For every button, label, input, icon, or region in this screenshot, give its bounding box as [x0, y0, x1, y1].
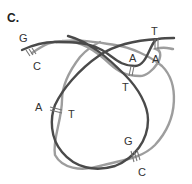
base-label-a-left: A	[35, 101, 43, 113]
base-label-t-left: T	[68, 108, 75, 120]
base-label-t-top-right: T	[151, 25, 158, 37]
base-label-c-top-left: C	[33, 60, 41, 72]
base-label-g-bottom: G	[124, 135, 133, 147]
base-label-t-upper-middle: T	[122, 81, 129, 93]
bond-top-left	[26, 48, 36, 56]
panel-label: C.	[7, 11, 19, 25]
dna-diagram: C. G C T A A T A T G C	[0, 0, 192, 184]
base-label-a-top-right: A	[152, 53, 160, 65]
base-label-c-bottom: C	[138, 166, 146, 178]
base-label-g-top-left: G	[19, 32, 28, 44]
base-label-a-upper-middle: A	[129, 52, 137, 64]
